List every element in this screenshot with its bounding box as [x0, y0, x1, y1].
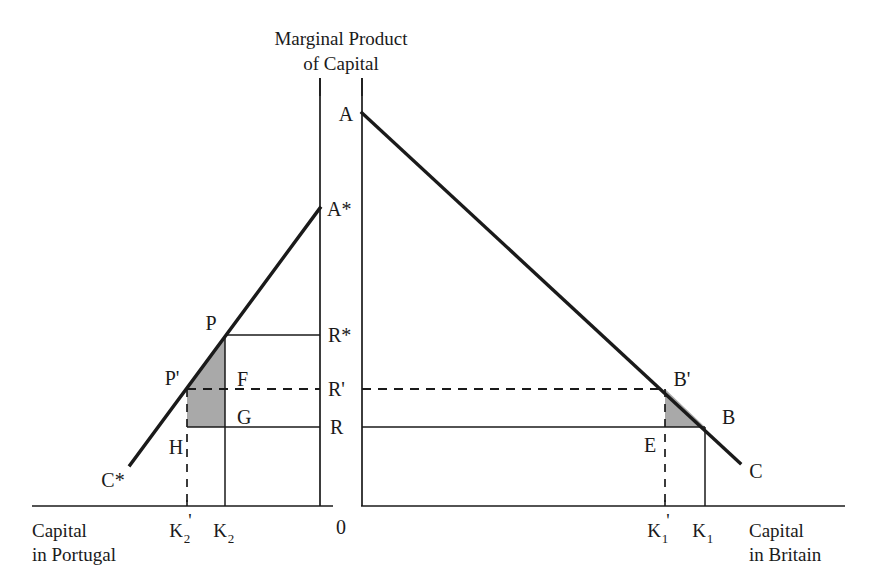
left-axis-caption-line1: Capital: [32, 520, 87, 541]
vertical-axes: [320, 78, 362, 506]
label-A-star: A*: [327, 198, 351, 220]
tick-label-k1-prime: K 1 ': [647, 510, 670, 546]
label-A: A: [339, 103, 354, 125]
tick-label-k1-base: K: [692, 520, 706, 541]
label-C-star: C*: [101, 469, 124, 491]
tick-label-k2-prime-subscript: 2: [184, 531, 191, 546]
figure-title-line2: of Capital: [303, 53, 378, 74]
label-E: E: [644, 434, 656, 456]
label-B-prime: B': [674, 368, 691, 390]
label-F: F: [237, 368, 248, 390]
tick-label-k1-prime-subscript: 1: [662, 531, 669, 546]
left-axis-caption-line2: in Portugal: [32, 544, 116, 565]
label-H: H: [169, 436, 183, 458]
capital-tick-labels: K 2 ' K 2 K 1 ' K 1: [169, 510, 713, 546]
baseline-tick-marks: [187, 500, 665, 506]
tick-label-k1-prime-mark: ': [666, 510, 669, 531]
figure-title: Marginal Product of Capital: [274, 28, 408, 74]
label-R-prime: R': [328, 378, 345, 400]
britain-gain-triangle: [665, 389, 705, 427]
britain-mpk-curve: [362, 113, 740, 463]
title-leader-lines: [320, 78, 362, 96]
tick-label-k2-subscript: 2: [228, 531, 235, 546]
point-labels: P P' F G H B' B E: [165, 312, 736, 458]
label-origin: 0: [336, 516, 346, 538]
tick-label-k2-prime-base: K: [169, 520, 183, 541]
tick-label-k2-prime-mark: ': [188, 510, 191, 531]
curve-labels: A A* C* C: [101, 103, 762, 491]
portugal-transfer-rectangle: [187, 389, 225, 427]
figure-title-line1: Marginal Product: [274, 28, 408, 49]
tick-label-k1-prime-base: K: [647, 520, 661, 541]
label-P-prime: P': [165, 367, 180, 389]
rate-level-lines: [187, 335, 705, 427]
right-axis-caption-line1: Capital: [749, 520, 804, 541]
label-R: R: [330, 416, 344, 438]
label-G: G: [237, 406, 251, 428]
tick-label-k2-base: K: [213, 520, 227, 541]
tick-label-k1: K 1: [692, 520, 713, 546]
rate-labels: R* R' R: [328, 324, 351, 438]
label-R-star: R*: [328, 324, 351, 346]
tick-label-k2-prime: K 2 ': [169, 510, 192, 546]
label-C: C: [749, 460, 762, 482]
label-P: P: [205, 312, 216, 334]
right-axis-caption-line2: in Britain: [749, 544, 822, 565]
shaded-regions: [187, 335, 705, 427]
mpk-diagram-figure: Marginal Product of Capital A A* C* C R*…: [0, 0, 871, 577]
diagram-canvas: Marginal Product of Capital A A* C* C R*…: [0, 0, 871, 577]
tick-label-k2: K 2: [213, 520, 234, 546]
label-B: B: [722, 406, 735, 428]
tick-label-k1-subscript: 1: [707, 531, 714, 546]
